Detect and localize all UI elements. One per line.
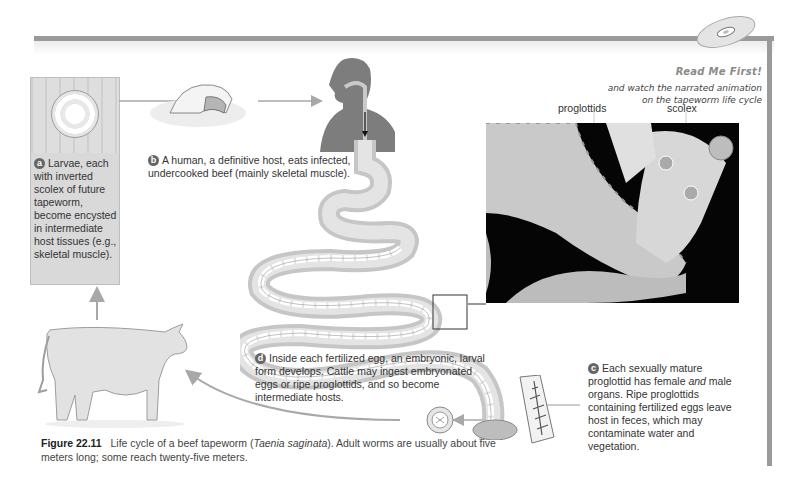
ripe-proglottid-illustration [510,375,560,445]
step-d-badge: d [255,353,266,364]
step-c-italic: and [688,375,706,387]
step-c-text-block: cEach sexually mature proglottid has fem… [588,362,738,453]
step-c-badge: c [588,363,599,374]
embryonated-egg-illustration [425,405,455,435]
step-b-badge: b [148,155,159,166]
tapeworm-sem-photo [486,123,739,303]
cattle-intermediate-host-illustration [35,320,195,430]
caption-text-1: Life cycle of a beef tapeworm ( [110,437,253,449]
infected-beef-illustration [140,75,250,130]
scolex-label: scolex [667,102,697,114]
step-c-text-1: Each sexually mature proglottid has fema… [588,362,702,387]
figure-number: Figure 22.11 [41,437,102,449]
caption-species: Taenia saginata [253,437,327,449]
step-d-text: Inside each fertilized egg, an embryonic… [255,352,485,403]
step-d-text-block: dInside each fertilized egg, an embryoni… [255,352,495,404]
figure-caption: Figure 22.11 Life cycle of a beef tapewo… [41,437,511,464]
proglottids-label: proglottids [558,102,606,114]
